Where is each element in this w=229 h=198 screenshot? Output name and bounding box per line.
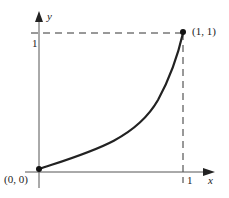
point-one-one [180, 29, 186, 35]
y-tick-label: 1 [32, 37, 38, 49]
y-axis-label: y [46, 10, 52, 22]
graph: y 1 (1, 1) (0, 0) 1 x [0, 0, 229, 198]
x-axis-label: x [207, 174, 213, 186]
x-tick-label: 1 [187, 174, 193, 186]
point-origin [36, 166, 42, 172]
point-one-one-label: (1, 1) [192, 25, 216, 38]
point-origin-label: (0, 0) [4, 173, 28, 186]
y-axis-arrow-icon [35, 11, 43, 22]
curve [39, 33, 183, 169]
